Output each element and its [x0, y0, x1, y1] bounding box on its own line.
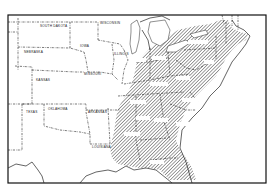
label-iowa: IOWA [80, 44, 90, 48]
label-south-dakota: SOUTH DAKOTA [40, 24, 68, 28]
label-kansas: KANSAS [36, 78, 50, 82]
lake-michigan [130, 20, 140, 54]
label-illinois: ILLINOIS [114, 52, 129, 56]
gulf-coastline [8, 162, 44, 183]
label-arkansas: ARKANSAS [88, 110, 107, 114]
label-oklahoma: OKLAHOMA [48, 107, 68, 111]
state-borders [8, 18, 128, 150]
label-louisiana: LOUISIANA [92, 145, 111, 149]
label-texas: TEXAS [26, 110, 37, 114]
label-wisconsin: WISCONSIN [100, 21, 121, 25]
map: SOUTH DAKOTA NEBRASKA KANSAS IOWA WISCON… [0, 0, 274, 190]
label-nebraska: NEBRASKA [24, 50, 44, 54]
label-missouri: MISSOURI [84, 72, 101, 76]
state-labels: SOUTH DAKOTA NEBRASKA KANSAS IOWA WISCON… [24, 21, 129, 149]
